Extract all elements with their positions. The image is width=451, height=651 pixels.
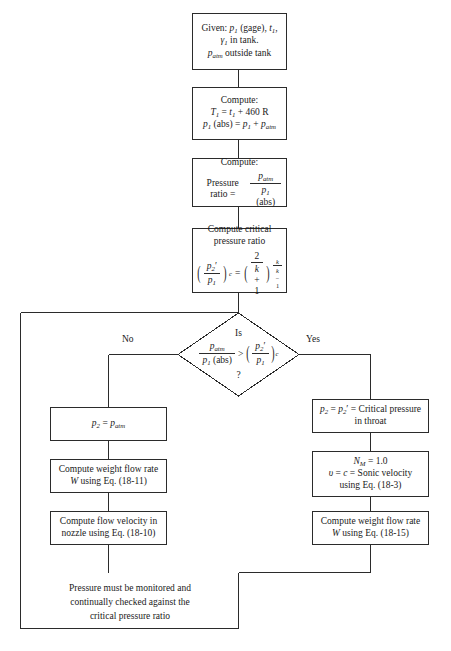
sonic-line-1: NM = 1.0 (317, 456, 424, 468)
decision-question-mark: ? (178, 370, 299, 381)
given-line-2: γ1 in tank. (197, 35, 282, 47)
monitoring-note-line-1: Pressure must be monitored and (30, 582, 230, 596)
pressure-ratio-label: Pressure ratio = (197, 178, 248, 202)
sonic-velocity-18-3-box[interactable]: NM = 1.0 υ = c = Sonic velocity using Eq… (312, 451, 429, 497)
critical-line-2: pressure ratio (196, 236, 284, 248)
compute-absolute-box[interactable]: Compute: T1 = t1 + 460 R p1 (abs) = p1 +… (192, 87, 287, 140)
pressure-ratio-line-1: Compute: (197, 157, 282, 169)
flow-1811-line-2: W using Eq. (18-11) (55, 476, 162, 488)
critical-pressure-throat-box[interactable]: p2 = p2′ = Critical pressure in throat (312, 399, 429, 433)
flow-velocity-18-10-box[interactable]: Compute flow velocity in nozzle using Eq… (50, 511, 167, 545)
compute-line-2: T1 = t1 + 460 R (197, 107, 282, 119)
pressure-ratio-box[interactable]: Compute: Pressure ratio = patm p1 (abs) (192, 158, 287, 207)
monitoring-note-line-3: critical pressure ratio (30, 610, 230, 624)
flowchart-canvas: Given: p1 (gage), t1, γ1 in tank. patm o… (0, 0, 451, 651)
critical-equation: ( p2′ p1 )c = ( 2 k + 1 ) k k − 1 (196, 251, 284, 297)
pressure-ratio-fraction: patm p1 (abs) (250, 171, 281, 207)
decision-is-label: Is (178, 328, 299, 339)
decision-condition: patm p1 (abs) > ( p2′ p1 )c (170, 341, 307, 367)
decision-left-fraction: patm p1 (abs) (199, 341, 235, 367)
weight-flow-rate-18-11-box[interactable]: Compute weight flow rate W using Eq. (18… (50, 459, 167, 493)
flow-1811-line-1: Compute weight flow rate (55, 464, 162, 476)
critical-line-1: Compute critical (196, 224, 284, 236)
weight-flow-rate-18-15-box[interactable]: Compute weight flow rate W using Eq. (18… (312, 511, 429, 545)
given-line-1: Given: p1 (gage), t1, (197, 23, 282, 35)
velocity-1810-line-2: nozzle using Eq. (18-10) (55, 528, 162, 540)
branch-label-yes: Yes (306, 334, 320, 344)
decision-right-fraction: p2′ p1 (252, 341, 268, 367)
critical-pressure-ratio-box[interactable]: Compute critical pressure ratio ( p2′ p1… (192, 228, 287, 293)
given-box[interactable]: Given: p1 (gage), t1, γ1 in tank. patm o… (192, 13, 287, 70)
sonic-line-2: υ = c = Sonic velocity (317, 468, 424, 480)
compute-line-1: Compute: (197, 95, 282, 107)
flow-1815-line-1: Compute weight flow rate (317, 516, 424, 528)
velocity-1810-line-1: Compute flow velocity in (55, 516, 162, 528)
compute-line-3: p1 (abs) = p1 + patm (197, 119, 282, 131)
monitoring-note: Pressure must be monitored and continual… (30, 582, 230, 623)
monitoring-note-line-2: continually checked against the (30, 596, 230, 610)
decision-operator: > (238, 349, 243, 359)
p2-equals-patm-box[interactable]: p2 = patm (50, 407, 167, 441)
given-line-3: patm outside tank (197, 48, 282, 60)
flow-1815-line-2: W using Eq. (18-15) (317, 528, 424, 540)
throat-line-2: in throat (317, 416, 424, 428)
throat-line-1: p2 = p2′ = Critical pressure (317, 404, 424, 416)
branch-label-no: No (122, 334, 134, 344)
sonic-line-3: using Eq. (18-3) (317, 480, 424, 492)
pressure-ratio-equation: Pressure ratio = patm p1 (abs) (197, 171, 282, 207)
p2-equals-patm-text: p2 = patm (55, 418, 162, 430)
